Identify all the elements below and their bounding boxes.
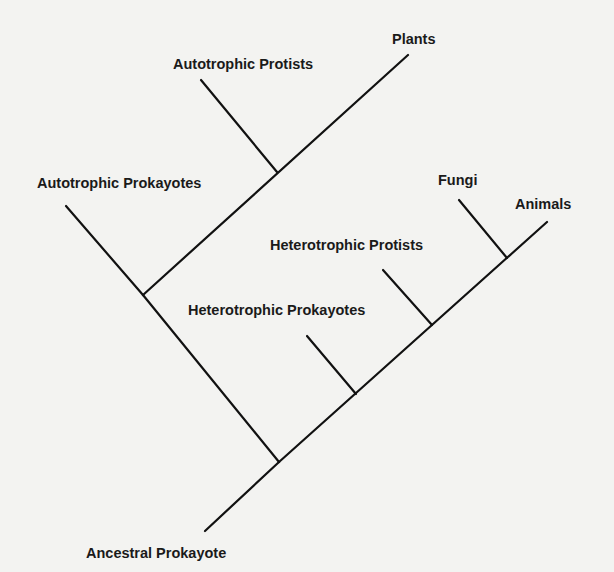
cladogram: Plants Autotrophic Protists Autotrophic …	[0, 0, 614, 572]
label-autotrophic-prokaryotes: Autotrophic Prokayotes	[37, 175, 201, 191]
label-fungi: Fungi	[438, 172, 477, 188]
branch-autotrophic-protists	[201, 80, 277, 172]
branch-ancestral-prokaryote	[205, 462, 279, 531]
label-autotrophic-protists: Autotrophic Protists	[173, 56, 313, 72]
branch-fungi	[459, 200, 507, 258]
label-ancestral-prokaryote: Ancestral Prokayote	[86, 545, 226, 561]
label-heterotrophic-protists: Heterotrophic Protists	[270, 237, 423, 253]
label-heterotrophic-prokaryotes: Heterotrophic Prokayotes	[188, 302, 365, 318]
branch-heterotrophic-prokaryotes	[307, 336, 356, 394]
label-plants: Plants	[392, 31, 436, 47]
branch-root-to-autotroph-node	[143, 295, 279, 462]
branch-heterotrophic-protists	[383, 270, 432, 325]
label-animals: Animals	[515, 196, 571, 212]
branch-autotrophic-prokaryotes	[66, 206, 143, 295]
